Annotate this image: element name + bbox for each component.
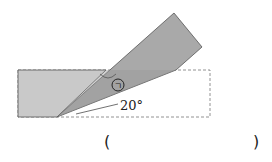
answer-close-paren: ): [253, 132, 259, 151]
answer-open-paren: (: [104, 132, 110, 151]
angle-label: 20°: [120, 98, 143, 113]
angle-marker-symbol: ㄱ: [114, 81, 122, 91]
folded-paper-diagram: ㄱ 20°: [0, 0, 272, 162]
